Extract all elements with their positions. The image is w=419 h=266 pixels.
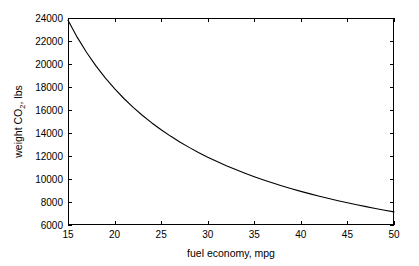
y-axis-label-after: , lbs	[12, 85, 24, 104]
figure-container: 1520253035404550 60008000100001200014000…	[0, 0, 419, 266]
y-tick-label: 18000	[35, 82, 63, 93]
y-tick-label: 22000	[35, 36, 63, 47]
x-tick-label: 25	[156, 229, 168, 240]
x-tick-label: 50	[388, 229, 400, 240]
y-tick-label: 20000	[35, 59, 63, 70]
x-tick-label: 30	[202, 229, 214, 240]
y-tick-label: 14000	[35, 128, 63, 139]
y-tick-label: 8000	[41, 197, 64, 208]
y-tick-label: 16000	[35, 105, 63, 116]
x-tick-label: 20	[109, 229, 121, 240]
x-tick-label: 40	[295, 229, 307, 240]
y-axis-label-before: weight CO	[12, 109, 24, 159]
x-axis-label: fuel economy, mpg	[187, 247, 275, 259]
y-tick-label: 12000	[35, 151, 63, 162]
y-tick-label: 10000	[35, 174, 63, 185]
x-tick-label: 35	[249, 229, 261, 240]
y-tick-label: 24000	[35, 13, 63, 24]
x-tick-label: 45	[342, 229, 354, 240]
x-tick-label: 15	[62, 229, 74, 240]
co2-vs-fuel-economy-chart: 1520253035404550 60008000100001200014000…	[0, 0, 419, 266]
y-tick-label: 6000	[41, 220, 64, 231]
